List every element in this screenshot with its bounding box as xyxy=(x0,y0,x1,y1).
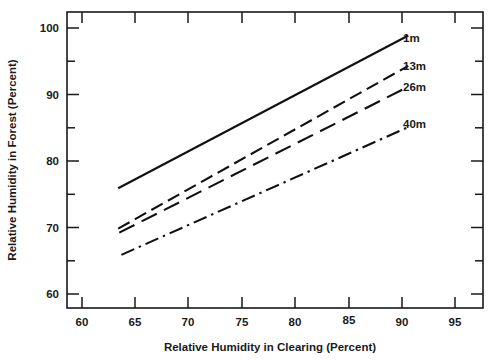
data-series-40m xyxy=(121,127,408,255)
y-axis-title: Relative Humidity in Forest (Percent) xyxy=(6,59,18,260)
chart-plot-area: 100 90 80 70 60 60 65 70 75 80 85 90 95 … xyxy=(0,0,489,360)
x-tick-label: 85 xyxy=(343,314,356,326)
series-label-1m: 1m xyxy=(403,32,420,44)
y-axis-major-ticks xyxy=(67,28,79,294)
x-tick-label: 70 xyxy=(182,316,195,328)
chart-figure: 100 90 80 70 60 60 65 70 75 80 85 90 95 … xyxy=(0,0,489,360)
plot-frame xyxy=(67,12,483,308)
y-tick-label: 100 xyxy=(40,22,59,34)
x-tick-label: 65 xyxy=(129,316,142,328)
series-label-40m: 40m xyxy=(403,118,426,130)
y-tick-label: 70 xyxy=(46,222,59,234)
y-axis-right-ticks xyxy=(471,28,483,294)
y-axis-tick-labels: 100 90 80 70 60 xyxy=(40,22,59,300)
y-tick-label: 80 xyxy=(46,155,59,167)
x-tick-label: 60 xyxy=(76,316,89,328)
x-tick-label: 90 xyxy=(396,316,409,328)
x-tick-label: 95 xyxy=(449,316,462,328)
x-axis-tick-labels: 60 65 70 75 80 85 90 95 xyxy=(76,314,462,328)
series-label-26m: 26m xyxy=(403,81,426,93)
data-series-26m xyxy=(119,87,408,233)
x-tick-label: 75 xyxy=(236,316,249,328)
x-axis-title: Relative Humidity in Clearing (Percent) xyxy=(164,341,376,353)
y-tick-label: 90 xyxy=(46,89,59,101)
x-axis-bottom-ticks xyxy=(82,297,455,308)
data-series-layer xyxy=(118,36,408,255)
y-tick-label: 60 xyxy=(46,288,59,300)
series-label-layer: 1m13m26m40m xyxy=(403,32,426,130)
data-series-1m xyxy=(118,36,408,189)
x-tick-label: 80 xyxy=(289,316,302,328)
series-label-13m: 13m xyxy=(403,60,426,72)
x-axis-top-ticks xyxy=(82,12,455,23)
